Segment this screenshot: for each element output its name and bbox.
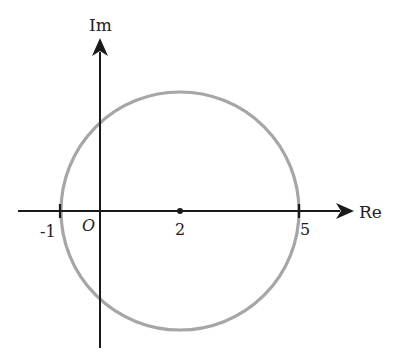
- tick-label-center: 2: [175, 222, 185, 238]
- tick-label-neg-one: -1: [40, 224, 56, 240]
- tick-label-five: 5: [300, 222, 310, 238]
- center-point: [177, 208, 183, 214]
- real-axis-label: Re: [359, 204, 382, 220]
- origin-label: O: [82, 218, 95, 234]
- imag-axis-label: Im: [89, 17, 112, 33]
- complex-plane-diagram: [0, 0, 398, 354]
